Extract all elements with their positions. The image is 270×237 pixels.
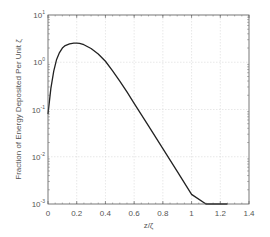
x-tick-label: 0 (46, 209, 51, 218)
y-tick-label: 10-2 (32, 151, 46, 162)
x-tick-label: 1.4 (243, 209, 255, 218)
series-layer (48, 43, 227, 204)
y-tick-label: 10-3 (32, 198, 46, 209)
x-tick-labels: 00.20.40.60.811.21.4 (46, 209, 255, 218)
x-axis-label: z/ζ (144, 221, 154, 230)
x-tick-label: 0.6 (129, 209, 141, 218)
x-tick-label: 0.2 (71, 209, 83, 218)
series-line (48, 43, 227, 204)
x-tick-label: 1.2 (215, 209, 227, 218)
chart: 00.20.40.60.811.21.4 10110010-110-210-3 … (0, 0, 270, 237)
x-tick-label: 0.4 (100, 209, 112, 218)
y-tick-label: 10-1 (32, 104, 46, 115)
x-tick-label: 0.8 (157, 209, 169, 218)
y-tick-label: 100 (33, 56, 45, 67)
y-tick-label: 101 (33, 9, 45, 20)
x-tick-label: 1 (189, 209, 194, 218)
y-axis-label: Fraction of Energy Deposited Per Unit ζ (14, 39, 23, 180)
y-tick-labels: 10110010-110-210-3 (32, 9, 46, 209)
